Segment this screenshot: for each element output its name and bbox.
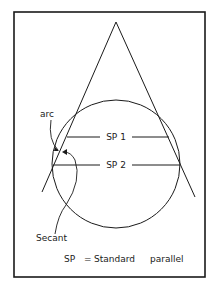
arc-label: arc [40,109,54,119]
sp2-label: SP 2 [106,160,126,170]
secant-label: Secant [36,233,67,243]
cone-right-side [116,22,195,197]
secant-leader-line [55,152,77,234]
arc-leader-line [50,120,58,150]
legend-word-parallel: parallel [150,254,183,264]
secant-arrowhead-icon [62,149,67,155]
secant-conic-diagram: SP 1 SP 2 arc Secant SP = Standard paral… [0,0,219,286]
arc-arrowhead-icon [54,147,59,151]
legend-abbr: SP [64,254,76,264]
legend-equals: = [84,254,92,264]
legend-word-standard: Standard [94,254,135,264]
cone-left-side [42,22,116,192]
sp1-label: SP 1 [106,132,126,142]
